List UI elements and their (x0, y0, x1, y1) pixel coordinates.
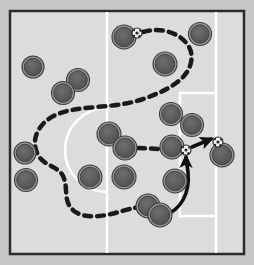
ball-marking-center (216, 140, 219, 143)
ball-start-icon[interactable] (132, 28, 142, 38)
player-marker[interactable] (22, 56, 44, 78)
ball-marking-3 (187, 152, 189, 154)
player-body (150, 205, 170, 225)
ball-marking-4 (182, 152, 184, 154)
ball-marking-center (135, 31, 138, 34)
player-body (115, 138, 135, 158)
player-marker[interactable] (52, 82, 75, 105)
player-body (114, 27, 134, 47)
player-body (212, 145, 232, 165)
ball-marking-2 (220, 138, 222, 140)
player-marker[interactable] (189, 23, 212, 46)
player-marker[interactable] (113, 136, 137, 160)
ball-marking-4 (133, 35, 135, 37)
ball-marking-1 (214, 138, 216, 140)
ball-mid-icon[interactable] (181, 145, 191, 155)
player-body (16, 144, 34, 162)
player-body (183, 116, 202, 135)
ball-marking-1 (133, 29, 135, 31)
player-body (54, 84, 73, 103)
player-marker[interactable] (78, 165, 102, 189)
player-marker[interactable] (153, 52, 177, 76)
ball-marking-2 (188, 146, 190, 148)
player-body (24, 58, 42, 76)
player-body (191, 25, 210, 44)
player-marker[interactable] (160, 103, 183, 126)
player-marker[interactable] (112, 165, 136, 189)
player-body (80, 167, 100, 187)
ball-marking-3 (219, 144, 221, 146)
player-body (162, 105, 181, 124)
player-body (165, 171, 185, 191)
player-marker[interactable] (148, 203, 172, 227)
player-marker[interactable] (181, 114, 204, 137)
player-marker[interactable] (163, 169, 187, 193)
player-marker[interactable] (210, 143, 234, 167)
player-marker[interactable] (14, 142, 36, 164)
player-body (17, 171, 36, 190)
play-diagram-board (0, 0, 254, 265)
ball-marking-2 (139, 29, 141, 31)
player-marker[interactable] (160, 135, 184, 159)
ball-marking-4 (214, 144, 216, 146)
player-marker[interactable] (15, 169, 38, 192)
player-body (155, 54, 175, 74)
player-marker[interactable] (112, 25, 136, 49)
player-body (114, 167, 134, 187)
player-body (162, 137, 182, 157)
ball-marking-center (184, 148, 187, 151)
ball-marking-1 (182, 146, 184, 148)
ball-marking-3 (138, 35, 140, 37)
pitch-canvas (0, 0, 254, 265)
ball-end-icon[interactable] (213, 137, 223, 147)
